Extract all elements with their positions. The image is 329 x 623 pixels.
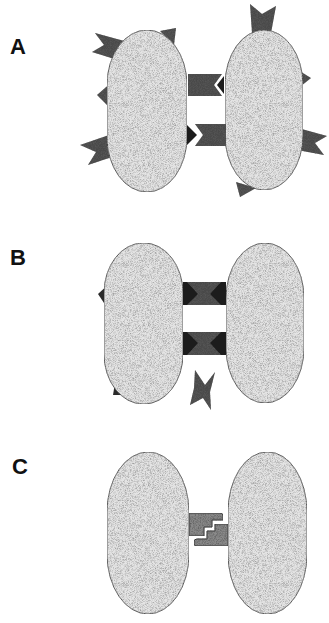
stepped-junction-c [189, 513, 228, 546]
cell-left-b [104, 243, 183, 404]
detached-junction-fragment-b [190, 370, 215, 410]
junction-top-a [188, 74, 224, 96]
panel-b [98, 243, 304, 410]
cell-right-b [226, 243, 304, 403]
junction-top-b [183, 282, 226, 305]
cell-left-a [107, 30, 187, 192]
cell-right-a [225, 30, 303, 190]
cell-right-c [228, 452, 307, 614]
cell-junction-diagram [0, 0, 329, 623]
junction-bottom-a [187, 124, 226, 146]
junction-bottom-b [183, 332, 226, 355]
cell-left-c [107, 452, 189, 614]
panel-c [107, 452, 307, 614]
panel-a [80, 4, 327, 197]
